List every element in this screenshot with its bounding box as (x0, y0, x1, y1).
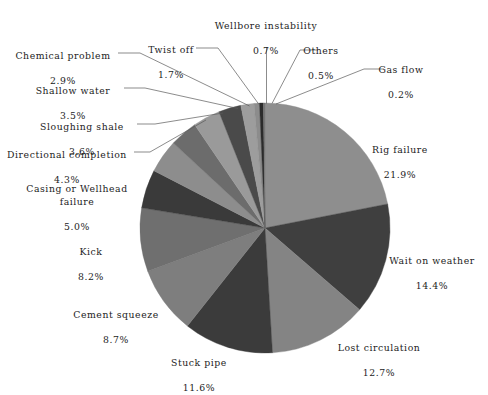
label-kick-name: Kick (62, 246, 120, 258)
label-gas-flow: Gas flow 0.2% (370, 52, 432, 114)
label-rig-failure-value: 21.9% (352, 169, 448, 181)
label-cement-squeeze: Cement squeeze 8.7% (62, 297, 170, 359)
label-rig-failure: Rig failure 21.9% (352, 132, 448, 194)
label-stuck-pipe-value: 11.6% (155, 382, 243, 394)
label-twist-off: Twist off 1.7% (140, 32, 202, 94)
label-sloughing-shale-name: Sloughing shale (32, 121, 132, 133)
label-kick-value: 8.2% (62, 271, 120, 283)
label-cement-squeeze-name: Cement squeeze (62, 309, 170, 321)
label-casing-wellhead-failure-value: 5.0% (22, 221, 132, 233)
label-wait-on-weather-name: Wait on weather (376, 255, 488, 267)
label-lost-circulation: Lost circulation 12.7% (322, 330, 436, 392)
label-wellbore-instability-name: Wellbore instability (206, 20, 326, 32)
label-wait-on-weather: Wait on weather 14.4% (376, 243, 488, 305)
label-stuck-pipe-name: Stuck pipe (155, 357, 243, 369)
label-lost-circulation-name: Lost circulation (322, 342, 436, 354)
label-others-name: Others (294, 45, 348, 57)
label-cement-squeeze-value: 8.7% (62, 334, 170, 346)
label-twist-off-value: 1.7% (140, 69, 202, 81)
label-shallow-water-name: Shallow water (28, 85, 118, 97)
label-others-value: 0.5% (294, 70, 348, 82)
label-kick: Kick 8.2% (62, 234, 120, 296)
label-stuck-pipe: Stuck pipe 11.6% (155, 345, 243, 395)
label-directional-completion-name: Directional completion (4, 149, 130, 161)
label-others: Others 0.5% (294, 33, 348, 95)
label-lost-circulation-value: 12.7% (322, 367, 436, 379)
label-gas-flow-value: 0.2% (370, 89, 432, 101)
label-casing-wellhead-failure-name: Casing or Wellhead failure (22, 183, 132, 208)
label-chemical-problem-name: Chemical problem (10, 50, 116, 62)
label-wait-on-weather-value: 14.4% (376, 280, 488, 292)
label-rig-failure-name: Rig failure (352, 144, 448, 156)
label-gas-flow-name: Gas flow (370, 64, 432, 76)
label-twist-off-name: Twist off (140, 44, 202, 56)
